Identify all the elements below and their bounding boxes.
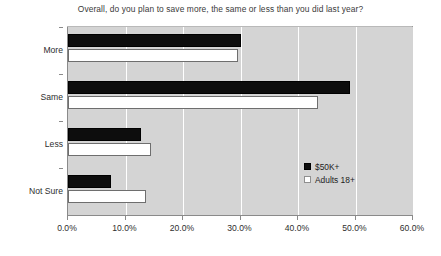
y-tick-mark: [59, 74, 63, 75]
bar-less-series-2: [68, 143, 151, 156]
x-tick-label-4: 40.0%: [267, 223, 327, 233]
black-square-icon: [304, 163, 311, 170]
x-tick-label-2: 20.0%: [152, 223, 212, 233]
legend-label-2: Adults 18+: [315, 175, 355, 185]
y-tick-mark: [59, 168, 63, 169]
bar-same-series-2: [68, 96, 318, 109]
y-tick-label-not-sure: Not Sure: [1, 186, 63, 196]
y-tick-label-more: More: [1, 45, 63, 55]
legend-label-1: $50K+: [315, 162, 339, 172]
x-tick-mark: [125, 216, 126, 220]
bar-not-sure-series-1: [68, 175, 111, 188]
gridline: [413, 27, 414, 215]
y-tick-mark: [59, 27, 63, 28]
chart-legend: $50K+Adults 18+: [301, 158, 393, 188]
x-tick-mark: [297, 216, 298, 220]
legend-item-1: $50K+: [304, 160, 390, 173]
bar-same-series-1: [68, 81, 350, 94]
bar-chart: Overall, do you plan to save more, the s…: [0, 0, 441, 256]
x-tick-label-1: 10.0%: [95, 223, 155, 233]
bar-not-sure-series-2: [68, 190, 146, 203]
y-tick-label-less: Less: [1, 139, 63, 149]
x-tick-mark: [182, 216, 183, 220]
bar-more-series-2: [68, 49, 238, 62]
y-tick-mark: [59, 121, 63, 122]
legend-item-2: Adults 18+: [304, 173, 390, 186]
x-tick-mark: [240, 216, 241, 220]
bar-group: [68, 27, 413, 74]
x-tick-label-5: 50.0%: [325, 223, 385, 233]
x-tick-mark: [67, 216, 68, 220]
y-axis: MoreSameLessNot Sure: [0, 27, 63, 215]
y-tick-label-same: Same: [1, 92, 63, 102]
bar-more-series-1: [68, 34, 241, 47]
bar-less-series-1: [68, 128, 141, 141]
x-tick-mark: [355, 216, 356, 220]
x-axis: 0.0%10.0%20.0%30.0%40.0%50.0%60.0%: [0, 223, 441, 237]
x-tick-label-0: 0.0%: [37, 223, 97, 233]
x-tick-mark: [412, 216, 413, 220]
chart-title: Overall, do you plan to save more, the s…: [0, 4, 441, 14]
x-axis-ticks: [67, 216, 413, 221]
bar-group: [68, 74, 413, 121]
x-tick-label-3: 30.0%: [210, 223, 270, 233]
white-square-icon: [304, 176, 311, 183]
x-tick-label-6: 60.0%: [382, 223, 441, 233]
